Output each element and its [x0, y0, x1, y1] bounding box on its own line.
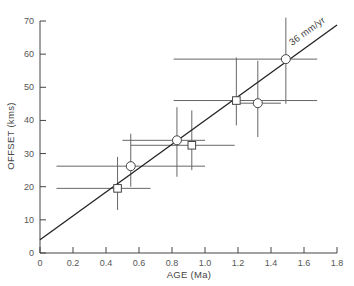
square-marker: [114, 185, 122, 193]
x-tick-label: 0: [37, 258, 42, 268]
error-bars: [57, 18, 318, 210]
y-tick-label: 0: [29, 248, 34, 258]
x-axis-title: AGE (Ma): [167, 269, 212, 280]
square-marker: [188, 141, 196, 149]
axes: 00.20.40.60.81.01.21.41.61.8010203040506…: [24, 16, 343, 268]
offset-vs-age-chart: 00.20.40.60.81.01.21.41.61.8010203040506…: [0, 0, 354, 286]
x-tick-label: 0.8: [166, 258, 179, 268]
fit-line: [40, 25, 337, 240]
circle-marker: [126, 162, 135, 171]
regression-line: [40, 25, 337, 240]
circle-marker: [281, 55, 290, 64]
y-tick-label: 10: [24, 215, 34, 225]
y-tick-label: 30: [24, 149, 34, 159]
x-tick-label: 1.0: [199, 258, 212, 268]
y-tick-label: 70: [24, 16, 34, 26]
x-tick-label: 1.6: [298, 258, 311, 268]
y-tick-label: 60: [24, 49, 34, 59]
fit-line-label: 36 mm/yr: [287, 14, 327, 48]
circle-marker: [172, 136, 181, 145]
x-tick-label: 1.8: [331, 258, 344, 268]
y-axis-title: OFFSET (kms): [5, 102, 16, 169]
circle-marker: [253, 99, 262, 108]
y-tick-label: 50: [24, 82, 34, 92]
y-tick-label: 20: [24, 182, 34, 192]
x-tick-label: 1.4: [265, 258, 278, 268]
square-marker: [233, 97, 241, 105]
x-tick-label: 0.2: [67, 258, 80, 268]
x-tick-label: 0.4: [100, 258, 113, 268]
data-markers: [114, 55, 291, 193]
y-tick-label: 40: [24, 115, 34, 125]
x-tick-label: 0.6: [133, 258, 146, 268]
x-tick-label: 1.2: [232, 258, 245, 268]
